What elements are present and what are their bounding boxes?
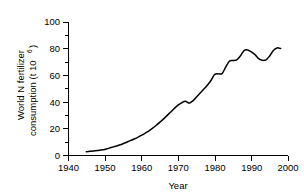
- x-tick-label-1950: 1950: [94, 162, 115, 173]
- y-axis-title-line1: World N fertilizer: [15, 50, 26, 120]
- line-chart: 0 20 40 60 80 100 1940 1950 1960 1970 19…: [0, 0, 304, 196]
- data-series-line: [86, 48, 280, 152]
- y-axis-title-exponent: 6: [26, 49, 33, 53]
- x-tick-label-1940: 1940: [58, 162, 79, 173]
- y-tick-label-80: 80: [49, 43, 60, 54]
- y-tick-label-0: 0: [55, 150, 60, 161]
- x-axis-ticks: [69, 156, 289, 162]
- y-axis-ticks: [63, 22, 69, 155]
- y-tick-label-40: 40: [49, 97, 60, 108]
- x-tick-label-2000: 2000: [277, 162, 298, 173]
- y-axis-tick-labels: 0 20 40 60 80 100: [44, 16, 60, 160]
- x-axis-title: Year: [168, 180, 187, 191]
- x-tick-label-1970: 1970: [168, 162, 189, 173]
- y-tick-label-60: 60: [49, 70, 60, 81]
- y-axis-title-close-paren: ): [27, 45, 38, 48]
- y-axis-title-line2: consumption (t 10: [27, 60, 38, 136]
- y-tick-label-100: 100: [44, 16, 60, 27]
- x-tick-label-1990: 1990: [241, 162, 262, 173]
- chart-figure: 0 20 40 60 80 100 1940 1950 1960 1970 19…: [0, 0, 304, 196]
- y-tick-label-20: 20: [49, 123, 60, 134]
- x-axis-tick-labels: 1940 1950 1960 1970 1980 1990 2000: [58, 162, 299, 173]
- x-tick-label-1960: 1960: [131, 162, 152, 173]
- y-axis-title: World N fertilizer consumption (t 10 6 ): [15, 45, 38, 136]
- x-tick-label-1980: 1980: [204, 162, 225, 173]
